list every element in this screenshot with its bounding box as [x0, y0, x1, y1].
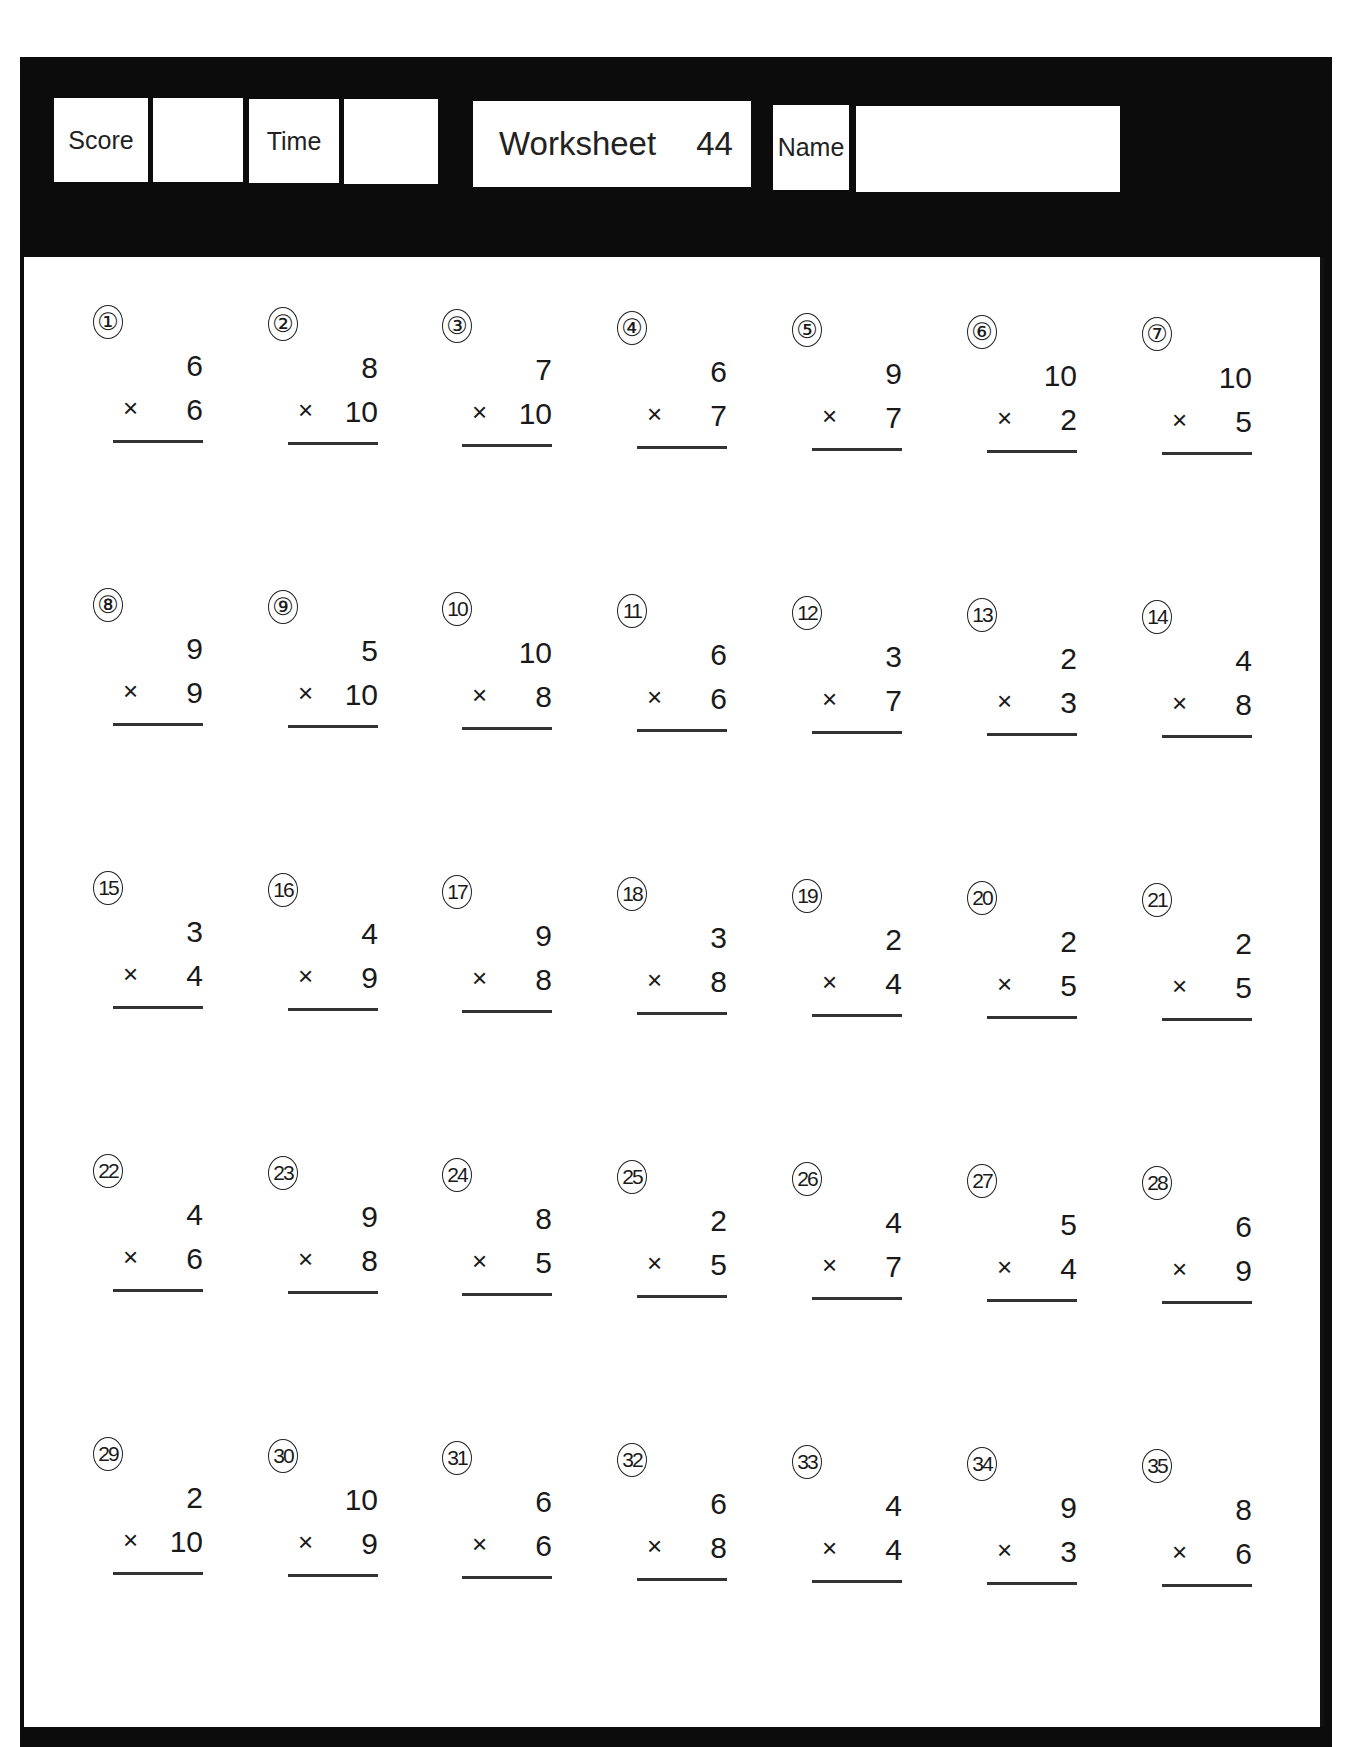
- multiplier: 7: [885, 1250, 902, 1284]
- multiplicand: 4: [885, 1489, 902, 1523]
- multiplier: 3: [1060, 686, 1077, 720]
- problem-23: 239×8: [268, 1156, 378, 1296]
- problem-number: 32: [617, 1443, 647, 1477]
- answer-line[interactable]: [987, 1582, 1077, 1585]
- times-icon: ×: [288, 961, 313, 995]
- answer-line[interactable]: [288, 1574, 378, 1577]
- answer-line[interactable]: [462, 727, 552, 730]
- answer-line[interactable]: [987, 1016, 1077, 1019]
- name-field[interactable]: [856, 106, 1120, 192]
- multiplier: 4: [885, 1533, 902, 1567]
- multiplier: 3: [1060, 1535, 1077, 1569]
- times-icon: ×: [1162, 405, 1187, 439]
- answer-line[interactable]: [812, 1297, 902, 1300]
- answer-line[interactable]: [288, 442, 378, 445]
- problem-6: ⑥10×2: [967, 315, 1077, 455]
- answer-line[interactable]: [288, 1008, 378, 1011]
- answer-line[interactable]: [462, 1576, 552, 1579]
- problem-number: ⑥: [967, 315, 997, 349]
- multiplicand: 5: [1060, 1208, 1077, 1242]
- problem-35: 358×6: [1142, 1449, 1252, 1589]
- answer-line[interactable]: [113, 1289, 203, 1292]
- multiplicand: 6: [535, 1485, 552, 1519]
- answer-line[interactable]: [1162, 735, 1252, 738]
- multiplicand: 2: [1235, 927, 1252, 961]
- multiplier: 5: [710, 1248, 727, 1282]
- answer-line[interactable]: [812, 731, 902, 734]
- answer-line[interactable]: [288, 725, 378, 728]
- multiplier: 7: [710, 399, 727, 433]
- problem-number: 24: [442, 1158, 472, 1192]
- multiplier: 4: [186, 959, 203, 993]
- problem-21: 212×5: [1142, 883, 1252, 1023]
- multiplier-row: ×9: [1162, 1254, 1252, 1288]
- answer-line[interactable]: [987, 733, 1077, 736]
- multiplier-row: ×3: [987, 686, 1077, 720]
- answer-line[interactable]: [987, 450, 1077, 453]
- multiplier-row: ×8: [288, 1244, 378, 1278]
- multiplier-row: ×7: [812, 1250, 902, 1284]
- answer-line[interactable]: [1162, 452, 1252, 455]
- answer-line[interactable]: [637, 1578, 727, 1581]
- answer-line[interactable]: [462, 1293, 552, 1296]
- multiplicand: 9: [361, 1200, 378, 1234]
- multiplicand: 3: [710, 921, 727, 955]
- multiplier: 8: [535, 963, 552, 997]
- multiplier: 8: [535, 680, 552, 714]
- multiplier-row: ×8: [462, 963, 552, 997]
- problem-number: ⑤: [792, 313, 822, 347]
- answer-line[interactable]: [113, 1572, 203, 1575]
- answer-line[interactable]: [113, 723, 203, 726]
- times-icon: ×: [987, 1535, 1012, 1569]
- answer-line[interactable]: [637, 729, 727, 732]
- problem-15: 153×4: [93, 871, 203, 1011]
- answer-line[interactable]: [113, 440, 203, 443]
- multiplier-row: ×4: [987, 1252, 1077, 1286]
- multiplier: 5: [1235, 971, 1252, 1005]
- name-label: Name: [773, 105, 849, 190]
- times-icon: ×: [812, 1250, 837, 1284]
- answer-line[interactable]: [462, 444, 552, 447]
- times-icon: ×: [462, 1529, 487, 1563]
- answer-line[interactable]: [987, 1299, 1077, 1302]
- problem-number: 22: [93, 1154, 123, 1188]
- answer-line[interactable]: [637, 1012, 727, 1015]
- multiplier-row: ×10: [113, 1525, 203, 1559]
- answer-line[interactable]: [1162, 1018, 1252, 1021]
- answer-line[interactable]: [462, 1010, 552, 1013]
- problem-29: 292×10: [93, 1437, 203, 1577]
- score-field[interactable]: [153, 98, 243, 182]
- problem-14: 144×8: [1142, 600, 1252, 740]
- problem-4: ④6×7: [617, 311, 727, 451]
- answer-line[interactable]: [812, 1580, 902, 1583]
- multiplicand: 2: [1060, 642, 1077, 676]
- multiplicand: 8: [1235, 1493, 1252, 1527]
- multiplier-row: ×3: [987, 1535, 1077, 1569]
- time-field[interactable]: [344, 99, 438, 184]
- problem-16: 164×9: [268, 873, 378, 1013]
- times-icon: ×: [1162, 1254, 1187, 1288]
- multiplicand: 3: [885, 640, 902, 674]
- times-icon: ×: [1162, 971, 1187, 1005]
- multiplicand: 5: [361, 634, 378, 668]
- answer-line[interactable]: [637, 1295, 727, 1298]
- answer-line[interactable]: [1162, 1584, 1252, 1587]
- answer-line[interactable]: [637, 446, 727, 449]
- answer-line[interactable]: [113, 1006, 203, 1009]
- problem-number: 12: [792, 596, 822, 630]
- times-icon: ×: [288, 395, 313, 429]
- multiplier-row: ×10: [288, 395, 378, 429]
- times-icon: ×: [987, 969, 1012, 1003]
- answer-line[interactable]: [288, 1291, 378, 1294]
- answer-line[interactable]: [812, 1014, 902, 1017]
- multiplier-row: ×9: [288, 1527, 378, 1561]
- problem-number: 30: [268, 1439, 298, 1473]
- multiplicand: 10: [519, 636, 552, 670]
- answer-line[interactable]: [812, 448, 902, 451]
- multiplier: 2: [1060, 403, 1077, 437]
- multiplicand: 10: [1219, 361, 1252, 395]
- times-icon: ×: [113, 393, 138, 427]
- answer-line[interactable]: [1162, 1301, 1252, 1304]
- times-icon: ×: [812, 684, 837, 718]
- multiplier-row: ×5: [462, 1246, 552, 1280]
